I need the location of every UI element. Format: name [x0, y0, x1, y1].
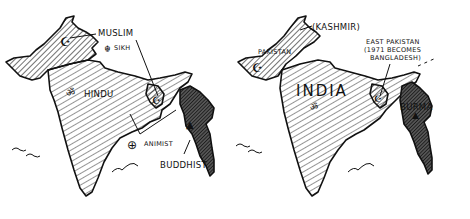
crescent-icon: ☪ [152, 95, 161, 106]
map-illustration: ☪ ☬ ॐ ☪ ⊕ ▲ MUSLIM SIKH HINDU ANIMIST BU… [0, 0, 470, 219]
label-animist: ANIMIST [144, 140, 173, 148]
label-bangladesh: BANGLADESH) [370, 54, 421, 62]
religions-map: ☪ ☬ ॐ ☪ ⊕ ▲ MUSLIM SIKH HINDU ANIMIST BU… [6, 16, 214, 196]
sea-wave [348, 163, 374, 172]
label-east-pakistan-note: (1971 BECOMES [364, 46, 421, 54]
animist-icon: ⊕ [127, 138, 137, 152]
label-kashmir: (KASHMIR) [312, 22, 360, 32]
burma-region [400, 82, 432, 174]
partition-map: ☪ ॐ ☪ ▲ (KASHMIR) PAKISTAN INDIA EAST PA… [236, 16, 436, 196]
khanda-icon: ☬ [104, 44, 110, 54]
label-pakistan: PAKISTAN [258, 48, 291, 56]
om-icon: ॐ [310, 102, 318, 112]
sea-wave [112, 163, 138, 172]
label-india: INDIA [296, 82, 348, 100]
sea-wave [26, 154, 40, 157]
sea-wave [12, 148, 26, 151]
sea-wave [248, 150, 262, 153]
crescent-icon: ☪ [374, 94, 382, 104]
label-east-pakistan: EAST PAKISTAN [366, 38, 420, 46]
label-muslim: MUSLIM [98, 28, 133, 38]
label-hindu: HINDU [84, 89, 114, 99]
crescent-icon: ☪ [252, 61, 263, 75]
label-buddhist: BUDDHIST [160, 160, 208, 170]
om-icon: ॐ [66, 87, 75, 98]
label-burma: BURMA [400, 102, 433, 112]
stupa-icon: ▲ [186, 119, 194, 130]
crescent-icon: ☪ [60, 35, 71, 49]
sea-wave [236, 144, 250, 147]
leader-line [184, 140, 190, 154]
label-sikh: SIKH [114, 44, 130, 52]
hindu-region [48, 60, 192, 196]
india-region [280, 60, 420, 196]
